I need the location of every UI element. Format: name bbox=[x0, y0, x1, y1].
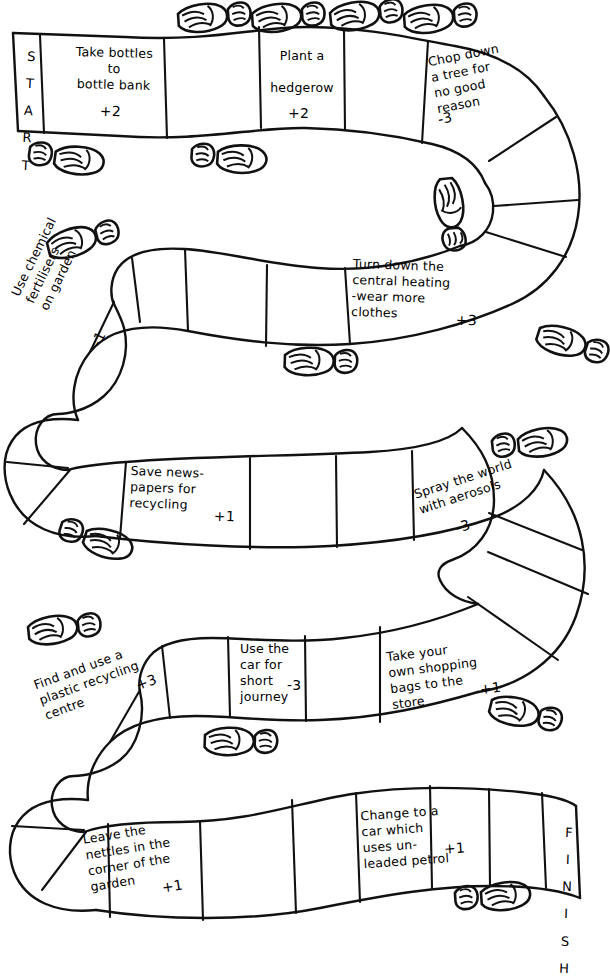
footprint-icon bbox=[191, 142, 268, 175]
space-shopping-bags-score: +1 bbox=[479, 679, 502, 699]
uturn4-div-1 bbox=[12, 826, 84, 830]
footprint-icon bbox=[177, 1, 251, 34]
footprint-icon bbox=[534, 320, 610, 369]
divider-33 bbox=[292, 800, 296, 913]
footprint-icon bbox=[204, 727, 277, 757]
space-car-short-text: Use the car for short journey bbox=[240, 641, 310, 705]
footprint-icon bbox=[454, 881, 531, 914]
divider-12 bbox=[132, 258, 140, 322]
divider-11 bbox=[185, 249, 188, 331]
uturn2-outer bbox=[5, 419, 96, 537]
space-hedgerow-score: +2 bbox=[288, 105, 309, 123]
divider-2 bbox=[259, 27, 261, 128]
finish-letter-5: H bbox=[553, 962, 575, 976]
finish-letter-0: F bbox=[558, 825, 580, 839]
divider-3 bbox=[344, 30, 345, 130]
space-newspapers-score: +1 bbox=[214, 508, 236, 527]
uturn2-div-2 bbox=[24, 470, 70, 524]
divider-36 bbox=[489, 789, 490, 886]
space-car-short-score: -3 bbox=[287, 677, 301, 695]
space-hedgerow-text: Plant a hedgerow bbox=[263, 48, 341, 96]
space-take-bottles-text: Take bottles to bottle bank bbox=[57, 44, 170, 95]
row2-inner-cap bbox=[114, 304, 124, 328]
start-letter-4: T bbox=[15, 158, 38, 173]
start-letter-1: T bbox=[19, 76, 42, 91]
space-central-heating-score: +3 bbox=[456, 312, 478, 331]
space-take-bottles-score: +2 bbox=[100, 103, 122, 122]
finish-letter-2: N bbox=[556, 880, 578, 894]
uturn2-div-1 bbox=[7, 462, 68, 468]
divider-finish bbox=[542, 793, 546, 888]
divider-16 bbox=[120, 462, 126, 538]
uturn1-div-2 bbox=[494, 200, 578, 206]
uturn3-div-1 bbox=[489, 513, 582, 550]
space-central-heating-text: Turn down the central heating -wear more… bbox=[351, 256, 473, 324]
uturn1-div-1 bbox=[489, 117, 556, 161]
footprint-icon bbox=[491, 426, 568, 461]
space-unleaded-text: Change to a car which uses un- leaded pe… bbox=[360, 802, 460, 873]
space-chop-tree-score: -3 bbox=[436, 109, 454, 129]
finish-letter-4: S bbox=[554, 934, 576, 948]
divider-9 bbox=[345, 268, 350, 344]
uturn1-div-3 bbox=[486, 232, 566, 257]
footprint-icon bbox=[251, 1, 325, 34]
footprint-icon bbox=[433, 177, 468, 252]
space-nettles-score: +1 bbox=[161, 876, 185, 897]
footprint-icon bbox=[487, 692, 564, 736]
footprint-icon bbox=[27, 140, 105, 178]
start-letter-2: A bbox=[18, 104, 41, 119]
row3-top-edge bbox=[68, 428, 462, 470]
finish-letter-3: I bbox=[555, 907, 577, 921]
footprint-icon bbox=[27, 611, 102, 646]
start-letter-3: R bbox=[16, 131, 39, 146]
divider-26 bbox=[228, 637, 230, 716]
divider-18 bbox=[336, 456, 337, 547]
finish-letter-1: I bbox=[557, 853, 579, 867]
start-letter-0: S bbox=[21, 49, 44, 64]
footprint-icon bbox=[403, 2, 477, 35]
divider-10 bbox=[266, 265, 267, 346]
space-unleaded-score: +1 bbox=[443, 839, 465, 858]
uturn4-div-2 bbox=[42, 832, 86, 890]
space-shopping-bags-text: Take your own shopping bags to the store bbox=[385, 637, 494, 713]
uturn4-outer bbox=[10, 799, 96, 911]
uturn3-div-2 bbox=[488, 552, 588, 594]
u-turn-top-right bbox=[460, 96, 580, 304]
divider-27 bbox=[162, 646, 170, 718]
uturn2-inner bbox=[36, 328, 126, 470]
footprint-icon bbox=[284, 347, 357, 377]
u-turn-left-upper bbox=[5, 328, 126, 537]
